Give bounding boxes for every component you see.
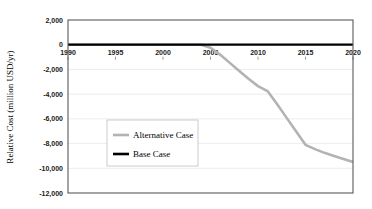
x-tick-label: 1995: [108, 49, 124, 56]
y-axis-title: Relative Cost (million USD/yr): [5, 50, 15, 163]
y-tick-label: -8,000: [43, 140, 63, 148]
y-tick-label: -6,000: [43, 115, 63, 123]
chart-legend: Alternative Case Base Case: [107, 120, 198, 166]
y-tick-label: -4,000: [43, 91, 63, 99]
y-tick-label: -2,000: [43, 66, 63, 74]
relative-cost-line-chart: 2,0000-2,000-4,000-6,000-8,000-10,000-12…: [0, 0, 372, 209]
legend-box: [107, 120, 198, 166]
y-tick-label: -12,000: [39, 190, 63, 198]
y-axis-tick-labels: 2,0000-2,000-4,000-6,000-8,000-10,000-12…: [39, 17, 63, 198]
legend-label-base-case: Base Case: [133, 149, 170, 159]
y-tick-label: 2,000: [45, 17, 63, 25]
x-tick-label: 2000: [155, 49, 171, 56]
x-tick-label: 2015: [298, 49, 314, 56]
chart-figure: 2,0000-2,000-4,000-6,000-8,000-10,000-12…: [0, 0, 372, 209]
x-tick-label: 2010: [250, 49, 266, 56]
legend-label-alternative-case: Alternative Case: [133, 130, 193, 140]
y-tick-label: -10,000: [39, 165, 63, 173]
y-tick-label: 0: [59, 41, 63, 48]
